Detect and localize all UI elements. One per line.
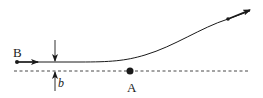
point-a-label: A	[127, 80, 137, 95]
point-a-dot	[127, 68, 134, 75]
final-position-dot	[226, 17, 230, 21]
final-velocity-arrow	[228, 10, 250, 19]
point-b-dot	[15, 60, 19, 64]
scattering-diagram: B A b	[0, 0, 263, 98]
trajectory-curve	[17, 11, 250, 62]
impact-parameter-label: b	[58, 76, 64, 90]
point-b-label: B	[13, 45, 22, 60]
